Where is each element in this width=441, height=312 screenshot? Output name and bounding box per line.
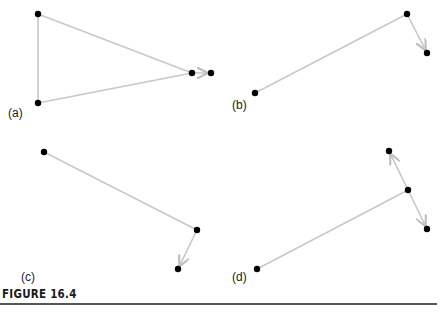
arrow-d [408, 190, 425, 225]
figure-caption: FIGURE 16.4 [2, 287, 77, 301]
panel-label-c: (c) [21, 270, 35, 284]
node-dot-c [175, 266, 181, 272]
node-dot-d [386, 148, 392, 154]
node-dot-a [208, 70, 214, 76]
edges-layer [38, 14, 425, 269]
node-dot-b [404, 11, 410, 17]
edge-d [257, 190, 408, 269]
node-dot-b [424, 50, 430, 56]
node-dot-b [252, 90, 258, 96]
node-dot-c [41, 149, 47, 155]
node-dot-a [189, 70, 195, 76]
node-dot-d [424, 226, 430, 232]
node-dot-d [405, 187, 411, 193]
edge-b [255, 14, 407, 93]
edge-c [44, 152, 197, 230]
arrow-d [391, 155, 408, 190]
node-dot-a [35, 100, 41, 106]
arrow-c [180, 230, 197, 265]
node-dot-d [254, 266, 260, 272]
caption-rule [0, 303, 437, 305]
figure-canvas [0, 0, 441, 312]
node-dot-c [194, 227, 200, 233]
node-dot-a [35, 11, 41, 17]
arrow-b [407, 14, 425, 49]
panel-label-a: (a) [8, 106, 23, 120]
panel-label-b: (b) [232, 98, 247, 112]
nodes-layer [35, 11, 430, 272]
edge-a [38, 73, 192, 103]
panel-label-d: (d) [232, 270, 247, 284]
edge-a [38, 14, 192, 73]
